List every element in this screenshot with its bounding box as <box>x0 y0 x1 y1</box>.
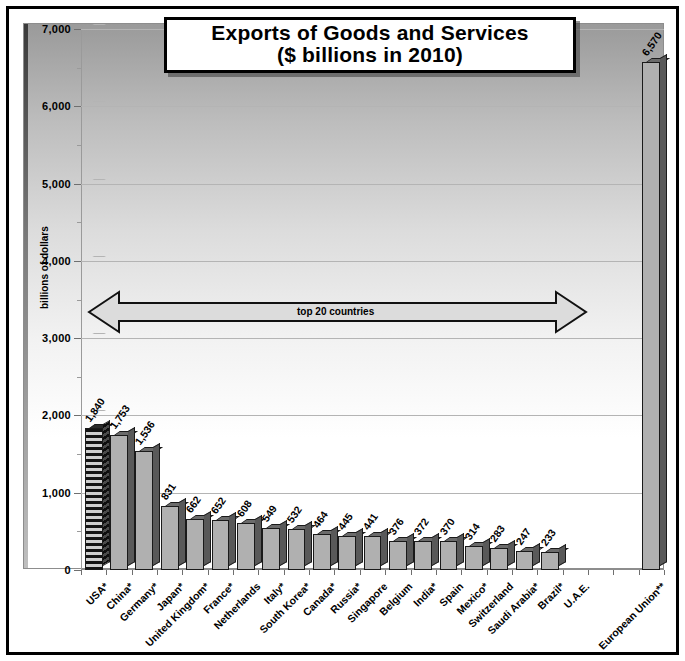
bar-front-face <box>186 519 204 570</box>
bar-front-face <box>364 536 382 570</box>
chart-title-box: Exports of Goods and Services ($ billion… <box>164 17 576 73</box>
gridline <box>81 184 664 185</box>
y-tick-minor <box>77 68 81 69</box>
bar-front-face <box>389 541 407 570</box>
bar: 532 <box>288 529 306 570</box>
y-tick-minor <box>77 454 81 455</box>
y-tick-label: 4,000 <box>42 255 71 267</box>
bar-front-face <box>541 552 559 570</box>
y-tick-minor <box>77 531 81 532</box>
y-tick-label: 0 <box>65 564 71 576</box>
chart-outer-frame: billions of dollars 01,0002,0003,0004,00… <box>6 6 679 655</box>
bar: 376 <box>389 541 407 570</box>
bar-side-face <box>533 543 540 566</box>
bar-front-face <box>440 541 458 570</box>
y-tick <box>74 493 81 494</box>
bar: 370 <box>440 541 458 570</box>
bar: 247 <box>516 551 534 570</box>
bar-side-face <box>457 533 464 566</box>
bar-value-label: 283 <box>487 523 507 544</box>
y-tick-label: 3,000 <box>42 332 71 344</box>
gridline <box>81 106 664 107</box>
bar-value-label: 372 <box>411 516 431 537</box>
bar-side-face <box>381 528 388 566</box>
y-tick-minor <box>77 222 81 223</box>
bar: 441 <box>364 536 382 570</box>
bar-front-face <box>262 528 280 570</box>
y-tick <box>74 29 81 30</box>
gridline <box>81 338 664 339</box>
bar-front-face <box>237 523 255 570</box>
bar-value-label: 441 <box>361 511 381 532</box>
y-tick-label: 6,000 <box>42 100 71 112</box>
bar: 6,570 <box>642 62 660 570</box>
bar-value-label: 532 <box>285 504 305 525</box>
bar-value-label: 6,570 <box>639 30 664 58</box>
y-tick-label: 1,000 <box>42 487 71 499</box>
y-tick <box>74 261 81 262</box>
bar: 652 <box>212 520 230 570</box>
bar-front-face <box>490 548 508 570</box>
x-axis-labels: USA*China*Germany*Japan*United Kingdom*F… <box>81 575 664 661</box>
chart-subtitle: ($ billions in 2010) <box>171 44 569 66</box>
x-tick-label: European Union** <box>596 580 668 652</box>
bar-side-face <box>255 515 262 566</box>
bar-front-face <box>135 451 153 570</box>
bar-side-face <box>407 533 414 566</box>
bar-front-face <box>85 428 103 570</box>
bar: 662 <box>186 519 204 570</box>
y-tick <box>74 415 81 416</box>
bar: 1,536 <box>135 451 153 570</box>
bar: 549 <box>262 528 280 570</box>
x-tick <box>664 570 665 575</box>
top-20-countries-label: top 20 countries <box>297 306 374 317</box>
bar-side-face <box>559 544 566 566</box>
bar-value-label: 662 <box>183 494 203 515</box>
x-tick-label: Brazil* <box>535 580 567 612</box>
chart-title: Exports of Goods and Services <box>171 22 569 44</box>
bar-side-face <box>128 426 135 566</box>
bar-value-label: 652 <box>209 494 229 515</box>
bar: 608 <box>237 523 255 570</box>
bar-side-face <box>432 533 439 566</box>
bar: 464 <box>313 534 331 570</box>
y-axis-line <box>81 29 82 570</box>
bar: 283 <box>490 548 508 570</box>
bar-side-face <box>356 528 363 566</box>
y-tick-minor <box>77 300 81 301</box>
gridline <box>81 261 664 262</box>
bar-side-face <box>229 512 236 566</box>
bar: 314 <box>465 546 483 570</box>
bar-side-face <box>103 420 110 566</box>
y-tick <box>74 184 81 185</box>
bar-value-label: 370 <box>437 516 457 537</box>
bar: 233 <box>541 552 559 570</box>
bar: 1,753 <box>110 435 128 570</box>
bar-front-face <box>338 536 356 570</box>
bar-side-face <box>660 54 667 566</box>
bar-front-face <box>313 534 331 570</box>
bar-front-face <box>212 520 230 570</box>
bar-side-face <box>280 520 287 566</box>
y-tick-minor <box>77 377 81 378</box>
bar-front-face <box>516 551 534 570</box>
y-tick <box>74 338 81 339</box>
bar: 1,840 <box>85 428 103 570</box>
plot-left-wall <box>24 24 28 568</box>
bar: 372 <box>414 541 432 570</box>
bar-value-label: 233 <box>538 527 558 548</box>
y-tick-label: 5,000 <box>42 178 71 190</box>
bar-side-face <box>204 511 211 566</box>
bar-value-label: 1,536 <box>133 419 158 447</box>
bar: 831 <box>161 506 179 570</box>
plot-area: 01,0002,0003,0004,0005,0006,0007,000 1,8… <box>81 29 664 570</box>
y-tick <box>74 570 81 571</box>
bar-value-label: 831 <box>158 481 178 502</box>
bar-side-face <box>305 521 312 566</box>
y-tick-label: 7,000 <box>42 23 71 35</box>
bar-value-label: 445 <box>335 510 355 531</box>
bar-side-face <box>483 538 490 566</box>
gridline <box>81 415 664 416</box>
bar-front-face <box>110 435 128 570</box>
bar-front-face <box>465 546 483 570</box>
